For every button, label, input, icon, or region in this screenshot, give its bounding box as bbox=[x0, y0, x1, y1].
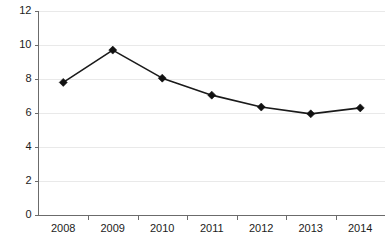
y-axis-tick-label: 6 bbox=[25, 106, 31, 118]
data-point-marker bbox=[257, 103, 265, 111]
data-point-markers-group bbox=[59, 46, 364, 118]
y-axis-tick-label: 8 bbox=[25, 72, 31, 84]
y-axis-tick-labels-group: 024681012 bbox=[19, 4, 31, 220]
x-axis-tick-label: 2010 bbox=[150, 222, 174, 234]
data-point-marker bbox=[307, 110, 315, 118]
x-axis-tick-label: 2011 bbox=[200, 222, 224, 234]
y-axis-tick-label: 10 bbox=[19, 38, 31, 50]
data-series-line bbox=[63, 50, 360, 114]
data-point-marker bbox=[208, 91, 216, 99]
chart-canvas: 024681012 2008200920102011201220132014 bbox=[0, 0, 391, 240]
y-axis-tick-label: 0 bbox=[25, 208, 31, 220]
line-chart: 024681012 2008200920102011201220132014 bbox=[0, 0, 391, 240]
x-axis-tick-label: 2012 bbox=[249, 222, 273, 234]
y-axis-tick-label: 2 bbox=[25, 174, 31, 186]
data-point-marker bbox=[158, 74, 166, 82]
y-axis-tick-label: 4 bbox=[25, 140, 31, 152]
x-axis-tick-label: 2013 bbox=[299, 222, 323, 234]
x-axis-tick-label: 2008 bbox=[51, 222, 75, 234]
x-axis-tick-labels-group: 2008200920102011201220132014 bbox=[51, 222, 372, 234]
data-point-marker bbox=[109, 46, 117, 54]
x-axis-tick-label: 2009 bbox=[101, 222, 125, 234]
data-point-marker bbox=[356, 104, 364, 112]
y-axis-tick-label: 12 bbox=[19, 4, 31, 16]
x-axis-tick-label: 2014 bbox=[348, 222, 372, 234]
y-axis-ticks-group bbox=[35, 12, 39, 216]
